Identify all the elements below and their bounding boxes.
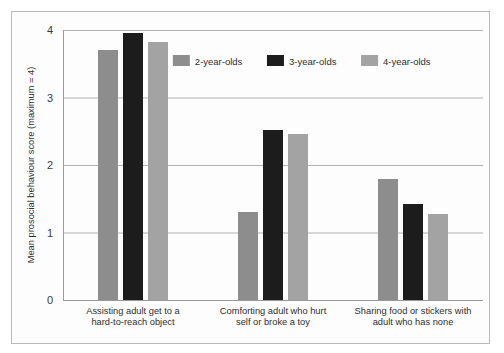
category-labels-group: Assisting adult get to ahard-to-reach ob…: [86, 306, 471, 327]
y-axis-title: Mean prosocial behaviour score (maximum …: [26, 67, 36, 264]
category-label-3: Sharing food or stickers with: [355, 306, 472, 316]
legend-label-1: 2-year-olds: [195, 56, 243, 67]
bar-chart: 01234 Assisting adult get to ahard-to-re…: [0, 0, 504, 353]
bar-1-4-year-olds: [148, 42, 168, 300]
y-tick-label: 0: [47, 294, 53, 306]
bar-1-2-year-olds: [98, 50, 118, 300]
legend-swatch-3: [361, 55, 378, 66]
category-label-1: Assisting adult get to a: [86, 306, 180, 316]
category-label-2: self or broke a toy: [236, 317, 310, 327]
legend-swatch-1: [173, 55, 190, 66]
legend-label-2: 3-year-olds: [289, 56, 337, 67]
bar-3-4-year-olds: [428, 214, 448, 300]
figure-container: 01234 Assisting adult get to ahard-to-re…: [0, 0, 504, 353]
bar-2-2-year-olds: [238, 212, 258, 300]
chart-legend: 2-year-olds3-year-olds4-year-olds: [173, 55, 431, 67]
y-tick-label: 3: [47, 92, 53, 104]
y-tick-label: 4: [47, 24, 53, 36]
bar-2-3-year-olds: [263, 130, 283, 300]
y-axis-title-group: Mean prosocial behaviour score (maximum …: [26, 67, 36, 264]
y-tick-labels-group: 01234: [47, 24, 53, 306]
legend-swatch-2: [267, 55, 284, 66]
y-tick-label: 2: [47, 159, 53, 171]
bar-3-3-year-olds: [403, 204, 423, 300]
bar-2-4-year-olds: [288, 134, 308, 300]
category-label-3: adult who has none: [373, 317, 454, 327]
category-label-1: hard-to-reach object: [91, 317, 175, 327]
bar-3-2-year-olds: [378, 179, 398, 301]
category-label-2: Comforting adult who hurt: [220, 306, 327, 316]
y-tick-label: 1: [47, 227, 53, 239]
legend-label-3: 4-year-olds: [383, 56, 431, 67]
bars-group: [63, 33, 483, 300]
bar-1-3-year-olds: [123, 33, 143, 300]
